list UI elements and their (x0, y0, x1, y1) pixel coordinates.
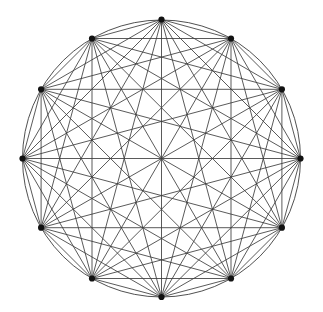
graph-vertex (228, 275, 234, 281)
graph-edge (92, 39, 301, 159)
graph-vertex (38, 86, 44, 92)
graph-vertex (38, 225, 44, 231)
graph-edge (92, 39, 282, 90)
graph-edge (41, 228, 161, 297)
graph-edge (23, 159, 42, 228)
edge-layer (23, 20, 301, 298)
graph-vertex (279, 225, 285, 231)
graph-edge (41, 39, 231, 228)
graph-edge (23, 159, 93, 279)
graph-edge (282, 89, 301, 158)
graph-vertex (89, 275, 95, 281)
graph-edge (41, 89, 92, 278)
graph-edge (41, 89, 161, 297)
graph-edge (23, 89, 42, 158)
graph-vertex (158, 16, 164, 22)
graph-edge (23, 159, 232, 279)
graph-vertex (279, 86, 285, 92)
graph-edge (282, 159, 301, 228)
graph-vertex (228, 35, 234, 41)
complete-graph-k12-diagram (0, 0, 323, 312)
graph-edge (41, 39, 92, 228)
graph-vertex (19, 155, 25, 161)
graph-edge (23, 39, 93, 159)
graph-edge (92, 89, 282, 278)
graph-edge (92, 279, 162, 298)
graph-edge (41, 89, 231, 278)
graph-edge (162, 20, 232, 39)
graph-edge (162, 279, 232, 298)
figure-canvas (0, 0, 323, 312)
graph-vertex (89, 35, 95, 41)
graph-edge (92, 20, 162, 39)
graph-vertex (158, 294, 164, 300)
graph-edge (92, 39, 282, 228)
graph-vertex (297, 155, 303, 161)
